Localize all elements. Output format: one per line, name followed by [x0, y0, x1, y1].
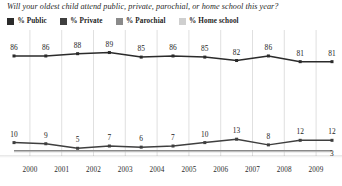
data-label: 7 — [107, 133, 111, 142]
data-label: 8 — [266, 132, 270, 141]
data-point-marker — [203, 141, 206, 144]
data-point-marker — [44, 54, 47, 57]
data-point-marker — [140, 56, 143, 59]
data-point-marker — [267, 54, 270, 57]
data-label: 12 — [296, 127, 304, 136]
legend-item-home-school: % Home school — [179, 17, 239, 25]
data-point-marker — [108, 51, 111, 54]
x-axis: 2000200120022003200420052006200720082009 — [0, 166, 342, 180]
data-point-marker — [299, 60, 302, 63]
chart-container: Will your oldest child attend public, pr… — [0, 0, 342, 186]
data-point-marker — [13, 54, 16, 57]
data-label: 81 — [328, 49, 336, 58]
data-point-marker — [235, 59, 238, 62]
chart-legend: % Public % Private % Parochial % Home sc… — [7, 15, 252, 27]
x-axis-tick-2004: 2004 — [150, 166, 165, 174]
data-label: 86 — [265, 43, 273, 52]
data-point-marker — [140, 146, 143, 149]
data-point-marker — [172, 54, 175, 57]
legend-swatch-parochial — [116, 18, 123, 25]
data-point-marker — [203, 56, 206, 59]
baseline-shadow — [0, 155, 342, 158]
data-label: 89 — [106, 40, 114, 49]
x-axis-tick-2008: 2008 — [277, 166, 292, 174]
data-point-marker — [44, 142, 47, 145]
legend-item-private: % Private — [60, 17, 103, 25]
data-point-marker — [76, 52, 79, 55]
data-label: 86 — [42, 43, 50, 52]
data-label: 85 — [201, 44, 209, 53]
legend-label-home-school: % Home school — [189, 17, 239, 25]
data-label: 12 — [328, 127, 336, 136]
data-point-marker — [235, 138, 238, 141]
legend-label-public: % Public — [18, 17, 47, 25]
x-axis-tick-2003: 2003 — [118, 166, 133, 174]
data-label: 9 — [44, 131, 48, 140]
legend-swatch-public — [7, 18, 14, 25]
data-point-marker — [267, 143, 270, 146]
data-point-marker — [172, 145, 175, 148]
data-label: 10 — [10, 130, 18, 139]
data-label: 86 — [169, 43, 177, 52]
x-axis-tick-2005: 2005 — [181, 166, 196, 174]
data-label: 82 — [233, 48, 241, 57]
data-label: 13 — [233, 126, 241, 135]
data-point-marker — [331, 60, 334, 63]
data-label: 3 — [330, 149, 334, 158]
x-axis-tick-2000: 2000 — [22, 166, 37, 174]
legend-item-public: % Public — [7, 17, 47, 25]
data-label: 85 — [137, 44, 145, 53]
x-axis-tick-2007: 2007 — [245, 166, 260, 174]
data-point-marker — [13, 141, 16, 144]
x-axis-tick-2006: 2006 — [213, 166, 228, 174]
chart-title: Will your oldest child attend public, pr… — [7, 1, 337, 12]
legend-item-parochial: % Parochial — [116, 17, 166, 25]
data-point-marker — [76, 147, 79, 150]
data-label: 7 — [171, 133, 175, 142]
data-point-marker — [299, 139, 302, 142]
data-label: 86 — [10, 43, 18, 52]
data-label: 5 — [76, 135, 80, 144]
x-axis-tick-2002: 2002 — [86, 166, 101, 174]
data-label: 6 — [139, 134, 143, 143]
data-point-marker — [331, 139, 334, 142]
data-label: 10 — [201, 130, 209, 139]
legend-label-parochial: % Parochial — [126, 17, 166, 25]
x-axis-tick-2001: 2001 — [54, 166, 69, 174]
data-label: 88 — [74, 41, 82, 50]
legend-label-private: % Private — [70, 17, 102, 25]
x-axis-tick-2009: 2009 — [309, 166, 324, 174]
legend-swatch-home-school — [179, 18, 186, 25]
data-point-marker — [108, 145, 111, 148]
legend-swatch-private — [60, 18, 67, 25]
data-label: 81 — [296, 49, 304, 58]
